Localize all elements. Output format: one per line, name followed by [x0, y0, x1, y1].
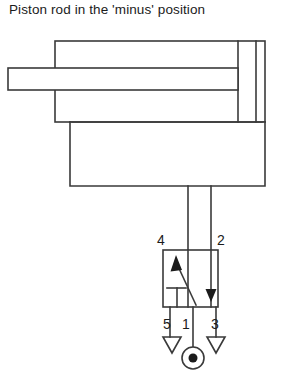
port-label-2: 2: [217, 232, 225, 248]
circuit-drawing: 4 2 5 1 3: [0, 0, 285, 385]
port-label-1: 1: [182, 316, 190, 332]
exhaust-symbol-3: [207, 337, 225, 353]
port-label-5: 5: [163, 316, 171, 332]
port-label-4: 4: [157, 232, 165, 248]
air-supply-dot: [189, 354, 198, 363]
port-label-3: 3: [211, 316, 219, 332]
pneumatic-diagram-canvas: Piston rod in the 'minus' position: [0, 0, 285, 385]
piston-rod: [8, 68, 238, 90]
cylinder-base: [70, 122, 265, 186]
exhaust-symbol-5: [163, 337, 181, 353]
